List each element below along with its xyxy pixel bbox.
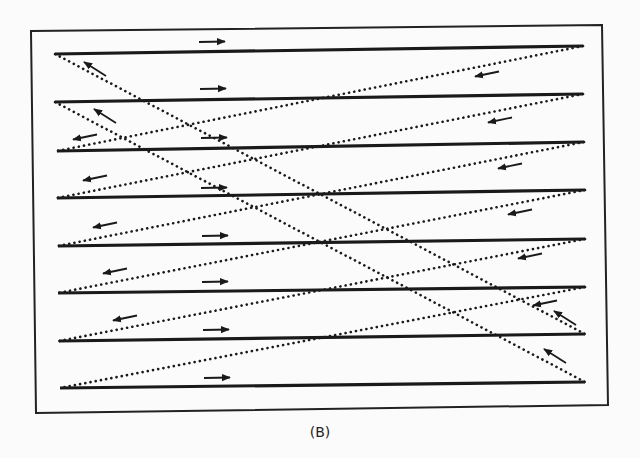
left-arrow-icon — [533, 301, 557, 306]
direction-arrows — [73, 42, 576, 379]
left-arrow-icon — [83, 176, 107, 181]
left-arrow-icon — [498, 164, 522, 169]
right-arrow-icon — [199, 42, 225, 43]
left-arrow-icon — [103, 269, 127, 274]
figure-caption: (B) — [0, 424, 640, 440]
left-arrow-icon — [93, 223, 117, 228]
scan-line — [55, 46, 583, 54]
raster-scan-diagram — [0, 0, 640, 458]
figure-frame — [31, 25, 608, 413]
right-arrow-icon — [204, 378, 230, 379]
scan-line — [60, 382, 585, 388]
left-arrow-icon — [488, 118, 512, 123]
right-arrow-icon — [202, 236, 228, 237]
scan-line — [58, 239, 585, 246]
left-arrow-icon — [73, 135, 97, 140]
right-arrow-icon — [201, 188, 227, 189]
scan-line — [57, 142, 584, 151]
left-arrow-icon — [113, 316, 137, 321]
diagonal-retrace-lines — [55, 54, 585, 382]
right-arrow-icon — [203, 330, 229, 331]
left-arrow-icon — [475, 72, 499, 77]
left-arrow-icon — [508, 210, 532, 215]
right-arrow-icon — [201, 138, 227, 139]
up-left-arrow-icon — [94, 109, 116, 123]
right-arrow-icon — [200, 89, 226, 90]
left-arrow-icon — [518, 254, 542, 259]
scan-line — [57, 190, 585, 198]
up-left-arrow-icon — [84, 62, 106, 76]
right-arrow-icon — [202, 282, 228, 283]
